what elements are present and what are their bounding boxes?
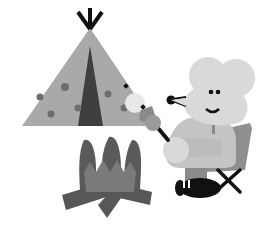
fire-flames xyxy=(79,137,141,192)
camping-illustration: Grayscale illustration of a mouse in a f… xyxy=(0,0,270,238)
mouse-eye-right xyxy=(216,90,221,95)
shoe xyxy=(175,178,221,198)
tent-poles xyxy=(78,8,102,29)
mouse-eye-left xyxy=(209,90,214,95)
campfire xyxy=(62,137,152,218)
